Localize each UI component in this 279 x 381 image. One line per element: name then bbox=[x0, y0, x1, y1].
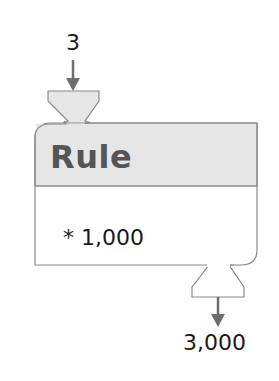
input-arrow-icon bbox=[66, 60, 80, 91]
rule-operation: * 1,000 bbox=[63, 225, 144, 250]
rule-machine-diagram bbox=[0, 0, 279, 381]
output-funnel bbox=[192, 265, 244, 297]
output-arrow-icon bbox=[211, 297, 225, 327]
input-value: 3 bbox=[58, 30, 88, 55]
output-value: 3,000 bbox=[183, 330, 246, 355]
rule-title: Rule bbox=[50, 138, 132, 176]
input-funnel bbox=[48, 91, 99, 123]
